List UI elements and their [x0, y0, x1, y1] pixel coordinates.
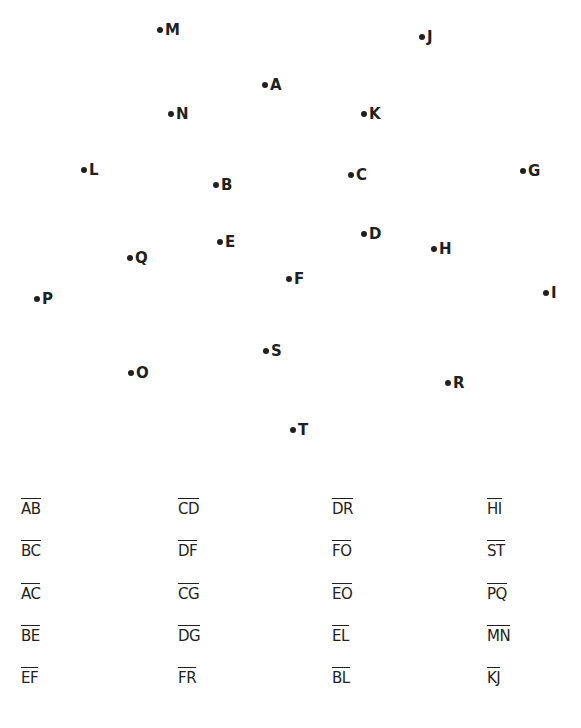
segment-label: MN	[487, 625, 510, 645]
point-dot-icon	[419, 34, 425, 40]
point-n: N	[171, 105, 189, 123]
segment-el: EL	[332, 625, 349, 647]
segment-label: CD	[178, 498, 199, 518]
point-r: R	[448, 374, 465, 392]
point-a: A	[265, 76, 282, 94]
point-dot-icon	[217, 239, 223, 245]
point-dot-icon	[262, 82, 268, 88]
segment-label: KJ	[487, 667, 500, 687]
point-q: Q	[130, 249, 148, 267]
segment-df: DF	[178, 540, 197, 562]
point-o: O	[131, 364, 149, 382]
segment-label: BL	[332, 667, 350, 687]
point-f: F	[289, 270, 304, 288]
point-dot-icon	[361, 231, 367, 237]
point-c: C	[351, 166, 367, 184]
segment-bl: BL	[332, 667, 350, 689]
point-dot-icon	[445, 380, 451, 386]
point-dot-icon	[168, 111, 174, 117]
point-label: I	[551, 284, 557, 302]
point-dot-icon	[81, 167, 87, 173]
point-dot-icon	[361, 111, 367, 117]
point-label: J	[427, 28, 433, 46]
segment-ab: AB	[21, 498, 41, 520]
point-dot-icon	[431, 246, 437, 252]
segment-hi: HI	[487, 498, 502, 520]
point-label: F	[294, 270, 304, 288]
point-p: P	[37, 290, 53, 308]
segment-cd: CD	[178, 498, 199, 520]
point-label: N	[176, 105, 189, 123]
segment-cg: CG	[178, 583, 199, 605]
segment-label: DR	[332, 498, 353, 518]
segment-label: HI	[487, 498, 502, 518]
segment-label: EF	[21, 667, 38, 687]
segment-ef: EF	[21, 667, 38, 689]
segment-pq: PQ	[487, 583, 507, 605]
segment-fo: FO	[332, 540, 351, 562]
point-dot-icon	[263, 348, 269, 354]
point-dot-icon	[520, 168, 526, 174]
point-label: R	[453, 374, 465, 392]
point-d: D	[364, 225, 381, 243]
point-dot-icon	[213, 182, 219, 188]
point-i: I	[546, 284, 557, 302]
segment-mn: MN	[487, 625, 510, 647]
point-label: M	[165, 21, 180, 39]
segment-be: BE	[21, 625, 40, 647]
segment-eo: EO	[332, 583, 352, 605]
segment-dg: DG	[178, 625, 200, 647]
point-s: S	[266, 342, 282, 360]
point-label: C	[356, 166, 367, 184]
segment-label: EO	[332, 583, 352, 603]
segment-list: ABBCACBEEFCDDFCGDGFRDRFOEOELBLHISTPQMNKJ	[0, 488, 581, 708]
segment-st: ST	[487, 540, 505, 562]
segment-ac: AC	[21, 583, 40, 605]
segment-label: EL	[332, 625, 349, 645]
segment-label: PQ	[487, 583, 507, 603]
point-dot-icon	[286, 276, 292, 282]
points-canvas: MJANKLBCGDEHQFPISORT	[0, 0, 581, 460]
point-label: G	[528, 162, 540, 180]
point-label: K	[369, 105, 381, 123]
segment-label: CG	[178, 583, 199, 603]
segment-label: DG	[178, 625, 200, 645]
point-m: M	[160, 21, 180, 39]
segment-label: BC	[21, 540, 41, 560]
segment-fr: FR	[178, 667, 196, 689]
point-label: B	[221, 176, 232, 194]
point-label: L	[89, 161, 99, 179]
point-k: K	[364, 105, 381, 123]
point-label: H	[439, 240, 452, 258]
point-e: E	[220, 233, 235, 251]
point-dot-icon	[127, 255, 133, 261]
segment-dr: DR	[332, 498, 353, 520]
segment-label: AB	[21, 498, 41, 518]
segment-label: DF	[178, 540, 197, 560]
point-label: T	[298, 421, 308, 439]
point-j: J	[422, 28, 433, 46]
segment-label: FR	[178, 667, 196, 687]
point-h: H	[434, 240, 452, 258]
point-label: E	[225, 233, 235, 251]
point-label: S	[271, 342, 282, 360]
point-g: G	[523, 162, 540, 180]
point-label: P	[42, 290, 53, 308]
point-b: B	[216, 176, 232, 194]
point-label: Q	[135, 249, 148, 267]
point-dot-icon	[128, 370, 134, 376]
segment-label: AC	[21, 583, 40, 603]
point-dot-icon	[348, 172, 354, 178]
segment-label: BE	[21, 625, 40, 645]
segment-label: ST	[487, 540, 505, 560]
point-l: L	[84, 161, 99, 179]
point-label: O	[136, 364, 149, 382]
segment-kj: KJ	[487, 667, 500, 689]
segment-bc: BC	[21, 540, 41, 562]
point-label: D	[369, 225, 381, 243]
point-t: T	[293, 421, 308, 439]
point-label: A	[270, 76, 282, 94]
point-dot-icon	[290, 427, 296, 433]
point-dot-icon	[157, 27, 163, 33]
point-dot-icon	[34, 296, 40, 302]
